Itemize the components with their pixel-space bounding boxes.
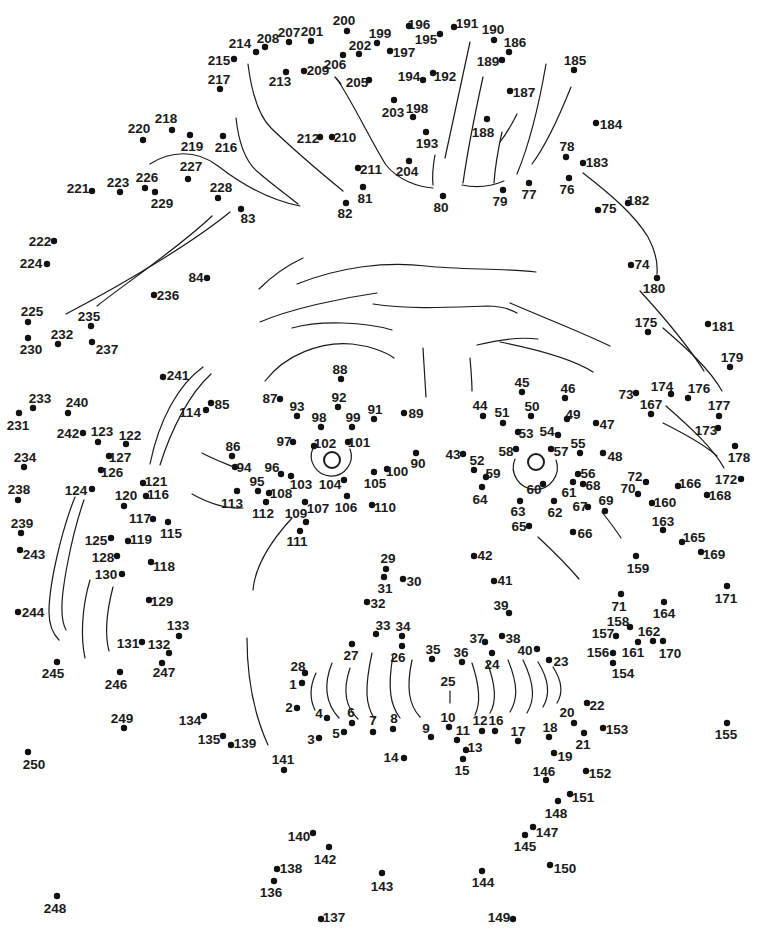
dot-23[interactable] bbox=[546, 657, 552, 663]
dot-239[interactable] bbox=[18, 530, 24, 536]
dot-47[interactable] bbox=[593, 420, 599, 426]
dot-42[interactable] bbox=[471, 553, 477, 559]
dot-128[interactable] bbox=[114, 553, 120, 559]
dot-175[interactable] bbox=[645, 329, 651, 335]
dot-164[interactable] bbox=[661, 599, 667, 605]
dot-140[interactable] bbox=[310, 830, 316, 836]
dot-8[interactable] bbox=[390, 726, 396, 732]
dot-201[interactable] bbox=[308, 38, 314, 44]
dot-50[interactable] bbox=[528, 413, 534, 419]
dot-207[interactable] bbox=[286, 39, 292, 45]
dot-10[interactable] bbox=[446, 724, 452, 730]
dot-20[interactable] bbox=[571, 720, 577, 726]
dot-159[interactable] bbox=[633, 553, 639, 559]
dot-155[interactable] bbox=[724, 720, 730, 726]
dot-221[interactable] bbox=[89, 188, 95, 194]
dot-171[interactable] bbox=[724, 583, 730, 589]
dot-148[interactable] bbox=[555, 798, 561, 804]
dot-72[interactable] bbox=[643, 479, 649, 485]
dot-230[interactable] bbox=[25, 335, 31, 341]
dot-87[interactable] bbox=[277, 396, 283, 402]
dot-43[interactable] bbox=[460, 451, 466, 457]
dot-242[interactable] bbox=[80, 430, 86, 436]
dot-225[interactable] bbox=[25, 319, 31, 325]
dot-222[interactable] bbox=[51, 238, 57, 244]
dot-15[interactable] bbox=[460, 756, 466, 762]
dot-238[interactable] bbox=[15, 497, 21, 503]
dot-80[interactable] bbox=[440, 193, 446, 199]
dot-99[interactable] bbox=[349, 424, 355, 430]
dot-24[interactable] bbox=[489, 650, 495, 656]
dot-75[interactable] bbox=[595, 207, 601, 213]
dot-5[interactable] bbox=[341, 729, 347, 735]
dot-77[interactable] bbox=[526, 180, 532, 186]
dot-203[interactable] bbox=[391, 97, 397, 103]
dot-235[interactable] bbox=[88, 323, 94, 329]
dot-136[interactable] bbox=[271, 878, 277, 884]
dot-64[interactable] bbox=[479, 484, 485, 490]
dot-177[interactable] bbox=[716, 413, 722, 419]
dot-245[interactable] bbox=[54, 659, 60, 665]
dot-130[interactable] bbox=[119, 571, 125, 577]
dot-105[interactable] bbox=[371, 469, 377, 475]
dot-66[interactable] bbox=[570, 529, 576, 535]
dot-142[interactable] bbox=[326, 844, 332, 850]
dot-112[interactable] bbox=[263, 499, 269, 505]
dot-26[interactable] bbox=[399, 643, 405, 649]
dot-54[interactable] bbox=[555, 432, 561, 438]
dot-141[interactable] bbox=[281, 767, 287, 773]
dot-104[interactable] bbox=[341, 477, 347, 483]
dot-74[interactable] bbox=[628, 262, 634, 268]
dot-16[interactable] bbox=[492, 728, 498, 734]
dot-133[interactable] bbox=[176, 633, 182, 639]
dot-44[interactable] bbox=[480, 413, 486, 419]
dot-79[interactable] bbox=[500, 187, 506, 193]
dot-248[interactable] bbox=[54, 893, 60, 899]
dot-21[interactable] bbox=[581, 730, 587, 736]
dot-229[interactable] bbox=[152, 189, 158, 195]
dot-214[interactable] bbox=[253, 49, 259, 55]
dot-149[interactable] bbox=[510, 916, 516, 922]
dot-234[interactable] bbox=[21, 464, 27, 470]
dot-131[interactable] bbox=[139, 639, 145, 645]
dot-250[interactable] bbox=[25, 749, 31, 755]
dot-150[interactable] bbox=[547, 862, 553, 868]
dot-88[interactable] bbox=[338, 376, 344, 382]
dot-70[interactable] bbox=[635, 491, 641, 497]
dot-84[interactable] bbox=[204, 275, 210, 281]
dot-194[interactable] bbox=[420, 77, 426, 83]
dot-114[interactable] bbox=[203, 407, 209, 413]
dot-19[interactable] bbox=[551, 750, 557, 756]
dot-244[interactable] bbox=[15, 609, 21, 615]
dot-233[interactable] bbox=[30, 405, 36, 411]
dot-195[interactable] bbox=[437, 31, 443, 37]
dot-45[interactable] bbox=[519, 389, 525, 395]
dot-62[interactable] bbox=[551, 498, 557, 504]
dot-4[interactable] bbox=[324, 715, 330, 721]
dot-73[interactable] bbox=[633, 390, 639, 396]
dot-32[interactable] bbox=[364, 599, 370, 605]
dot-218[interactable] bbox=[169, 127, 175, 133]
dot-115[interactable] bbox=[165, 519, 171, 525]
dot-81[interactable] bbox=[360, 184, 366, 190]
dot-215[interactable] bbox=[231, 56, 237, 62]
dot-106[interactable] bbox=[344, 493, 350, 499]
dot-217[interactable] bbox=[217, 86, 223, 92]
dot-156[interactable] bbox=[610, 650, 616, 656]
dot-14[interactable] bbox=[401, 755, 407, 761]
dot-184[interactable] bbox=[593, 120, 599, 126]
dot-186[interactable] bbox=[506, 49, 512, 55]
dot-27[interactable] bbox=[349, 641, 355, 647]
dot-52[interactable] bbox=[471, 467, 477, 473]
dot-220[interactable] bbox=[140, 137, 146, 143]
dot-193[interactable] bbox=[423, 129, 429, 135]
dot-246[interactable] bbox=[117, 669, 123, 675]
dot-172[interactable] bbox=[738, 476, 744, 482]
dot-237[interactable] bbox=[89, 339, 95, 345]
dot-35[interactable] bbox=[429, 656, 435, 662]
dot-113[interactable] bbox=[234, 488, 240, 494]
dot-241[interactable] bbox=[160, 374, 166, 380]
dot-29[interactable] bbox=[383, 566, 389, 572]
dot-58[interactable] bbox=[513, 446, 519, 452]
dot-135[interactable] bbox=[220, 733, 226, 739]
